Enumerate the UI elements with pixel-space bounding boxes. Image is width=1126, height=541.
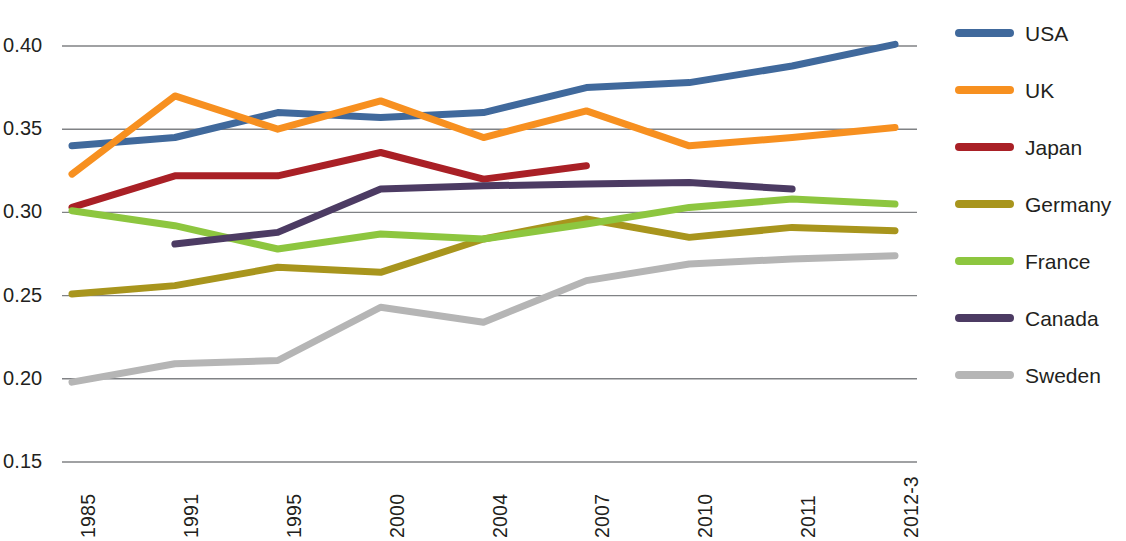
legend-swatch-icon — [955, 257, 1014, 265]
y-axis-tick-label: 0.15 — [3, 451, 42, 471]
series-line-usa — [72, 44, 895, 146]
legend-swatch-icon — [955, 371, 1014, 379]
x-axis-tick-label: 1991 — [182, 494, 202, 538]
legend-item-japan[interactable]: Japan — [955, 132, 1082, 162]
x-axis-tick-label: 2004 — [491, 494, 511, 538]
legend-item-germany[interactable]: Germany — [955, 189, 1111, 219]
x-axis-tick-label: 2010 — [696, 494, 716, 538]
y-axis-tick-label: 0.30 — [3, 201, 42, 221]
legend-swatch-icon — [955, 143, 1014, 151]
legend-label: Germany — [1025, 194, 1111, 215]
chart-legend: USAUKJapanGermanyFranceCanadaSweden — [955, 0, 1126, 400]
legend-label: Canada — [1025, 308, 1099, 329]
x-axis-tick-label: 2007 — [593, 494, 613, 538]
legend-label: Sweden — [1025, 365, 1101, 386]
legend-swatch-icon — [955, 200, 1014, 208]
y-axis-tick-label: 0.25 — [3, 285, 42, 305]
legend-swatch-icon — [955, 29, 1014, 37]
series-lines — [72, 44, 895, 382]
legend-item-uk[interactable]: UK — [955, 75, 1054, 105]
line-chart: 0.150.200.250.300.350.40 198519911995200… — [0, 0, 1126, 541]
y-axis-tick-label: 0.40 — [3, 35, 42, 55]
series-line-japan — [72, 153, 586, 208]
x-axis-tick-label: 1985 — [79, 494, 99, 538]
series-line-sweden — [72, 256, 895, 382]
legend-label: Japan — [1025, 137, 1082, 158]
y-axis-tick-label: 0.35 — [3, 118, 42, 138]
y-axis-tick-label: 0.20 — [3, 368, 42, 388]
legend-item-france[interactable]: France — [955, 246, 1090, 276]
legend-item-usa[interactable]: USA — [955, 18, 1068, 48]
legend-label: UK — [1025, 80, 1054, 101]
legend-swatch-icon — [955, 314, 1014, 322]
legend-label: France — [1025, 251, 1090, 272]
x-axis-tick-label: 1995 — [285, 494, 305, 538]
legend-swatch-icon — [955, 86, 1014, 94]
x-axis-tick-label: 2011 — [799, 495, 819, 538]
legend-label: USA — [1025, 23, 1068, 44]
x-axis-tick-label: 2012-3 — [902, 476, 922, 538]
legend-item-canada[interactable]: Canada — [955, 303, 1099, 333]
x-axis-tick-label: 2000 — [388, 494, 408, 538]
legend-item-sweden[interactable]: Sweden — [955, 360, 1101, 390]
